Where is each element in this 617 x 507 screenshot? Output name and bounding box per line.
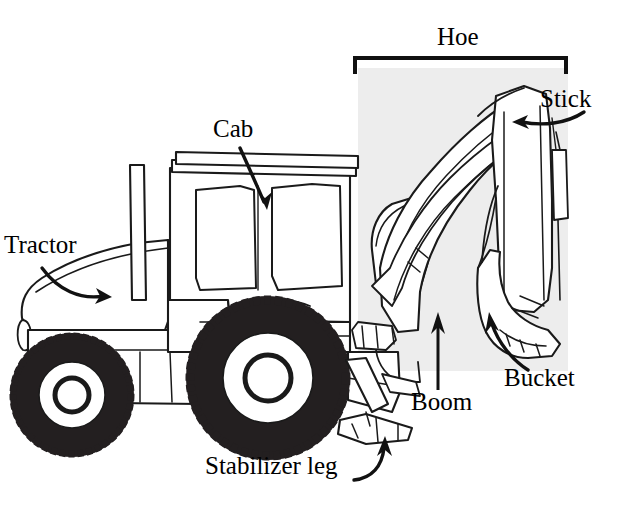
- label-stabilizer-leg: Stabilizer leg: [205, 453, 338, 478]
- label-tractor: Tractor: [4, 232, 77, 257]
- boom-lift-cylinder: [352, 322, 396, 350]
- stabilizer-foot: [338, 414, 412, 444]
- cab-window-rear: [272, 184, 342, 290]
- hydraulic-cylinder: [552, 150, 568, 220]
- cab-window-front: [196, 186, 256, 290]
- exhaust-pipe: [130, 165, 146, 300]
- label-boom: Boom: [411, 389, 472, 414]
- cab-roof-overhang: [176, 152, 358, 168]
- label-stick: Stick: [540, 86, 591, 111]
- backhoe-diagram-svg: [0, 0, 617, 507]
- backhoe-diagram-figure: Tractor Cab Hoe Stick Boom Bucket Stabil…: [0, 0, 617, 507]
- label-cab: Cab: [213, 116, 253, 141]
- front-tire: [10, 333, 134, 457]
- label-bucket: Bucket: [504, 365, 575, 390]
- rear-tire: [186, 296, 350, 460]
- label-hoe: Hoe: [437, 24, 479, 49]
